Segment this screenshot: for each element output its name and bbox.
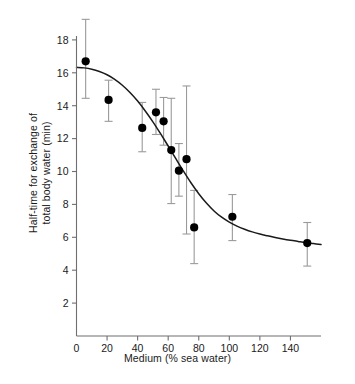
data-point [82,57,90,65]
y-axis-title-line1: Half-time for exchange of [27,113,39,233]
y-tick-label: 10 [57,165,69,177]
y-tick-label: 12 [57,132,69,144]
data-point [104,96,112,104]
data-point [167,146,175,154]
y-tick-label: 8 [63,198,69,210]
y-tick-label: 4 [63,264,69,276]
data-point [228,213,236,221]
y-tick-label: 6 [63,231,69,243]
data-point [138,124,146,132]
axes-group [77,36,322,336]
y-tick-label: 2 [63,297,69,309]
y-axis-ticks: 24681012141618 [57,34,77,309]
chart-plot-area: 24681012141618 020406080100120140 [0,0,355,384]
y-axis-title: Half-time for exchange oftotal body wate… [27,23,53,323]
y-tick-label: 16 [57,67,69,79]
data-point [152,108,160,116]
data-point [182,155,190,163]
y-axis-title-line2: total body water (min) [40,121,52,224]
y-axis-title-wrapper: Half-time for exchange oftotal body wate… [0,0,40,340]
chart-svg: 24681012141618 020406080100120140 [0,0,355,384]
y-tick-label: 14 [57,100,69,112]
data-point [160,117,168,125]
data-point [303,239,311,247]
fit-curve-line [77,67,322,244]
data-point [190,223,198,231]
data-point [175,167,183,175]
figure-container: 24681012141618 020406080100120140 Half-t… [0,0,355,384]
y-tick-label: 18 [57,34,69,46]
x-axis-title: Medium (% sea water) [0,352,355,364]
data-point-group [82,57,312,247]
